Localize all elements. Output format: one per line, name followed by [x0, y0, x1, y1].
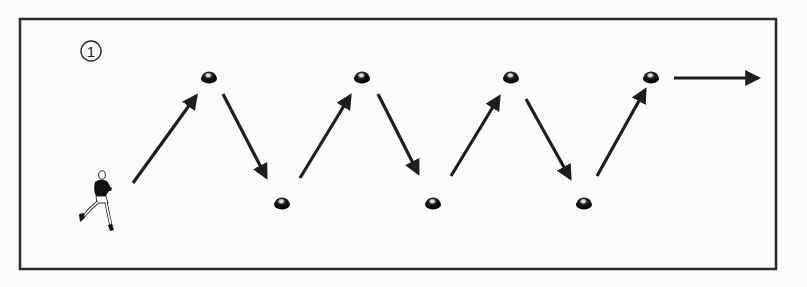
- step-number: 1: [87, 43, 95, 60]
- diagram-frame: [20, 19, 776, 269]
- drill-diagram: 1: [0, 0, 807, 287]
